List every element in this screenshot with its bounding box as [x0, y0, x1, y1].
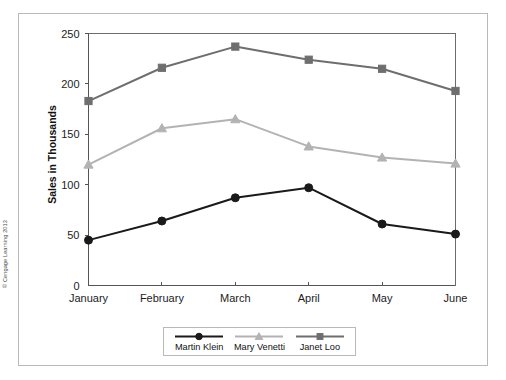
- y-axis-title: Sales in Thousands: [46, 105, 58, 204]
- series-mary-venetti: [84, 115, 460, 169]
- legend-label-2: Janet Loo: [300, 342, 340, 353]
- legend-item-1[interactable]: Mary Venetti: [229, 330, 289, 353]
- y-tick-label: 0: [73, 280, 79, 292]
- figure-container: © Cengage Learning 2013 050100150200250J…: [0, 0, 506, 380]
- chart-series: [84, 43, 460, 244]
- chart-labels: 050100150200250JanuaryFebruaryMarchApril…: [46, 28, 467, 304]
- series-janet-loo: [85, 43, 459, 105]
- legend-label-1: Mary Venetti: [234, 342, 285, 353]
- series-martin-klein: [85, 184, 460, 244]
- legend-label-0: Martin Klein: [175, 342, 224, 353]
- legend-swatch-mary-venetti: [233, 331, 285, 342]
- chart-legend: Martin Klein Mary Venetti Janet Loo: [163, 327, 356, 356]
- y-tick-label: 250: [61, 28, 79, 40]
- x-tick-label: January: [69, 292, 109, 304]
- legend-item-2[interactable]: Janet Loo: [290, 330, 350, 353]
- legend-swatch-martin-klein: [173, 331, 225, 342]
- x-tick-label: April: [298, 292, 320, 304]
- x-tick-label: May: [372, 292, 393, 304]
- y-tick-label: 50: [67, 229, 79, 241]
- y-tick-label: 200: [61, 78, 79, 90]
- line-chart: 050100150200250JanuaryFebruaryMarchApril…: [0, 0, 506, 380]
- x-tick-label: March: [220, 292, 251, 304]
- legend-item-0[interactable]: Martin Klein: [169, 330, 229, 353]
- y-tick-label: 150: [61, 128, 79, 140]
- x-tick-label: June: [444, 292, 468, 304]
- x-tick-label: February: [140, 292, 185, 304]
- y-tick-label: 100: [61, 179, 79, 191]
- legend-swatch-janet-loo: [294, 331, 346, 342]
